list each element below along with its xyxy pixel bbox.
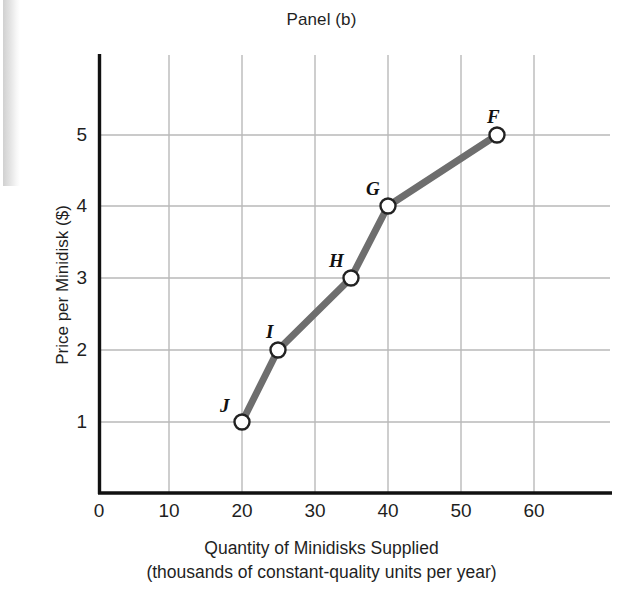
- point-label-G: G: [366, 178, 380, 200]
- data-point-H: [344, 271, 359, 286]
- x-tick-label-20: 20: [220, 500, 264, 522]
- data-point-F: [490, 128, 505, 143]
- point-label-J: J: [220, 395, 230, 417]
- point-label-H: H: [329, 250, 344, 272]
- data-point-I: [271, 343, 286, 358]
- point-label-I: I: [266, 321, 273, 343]
- x-tick-label-10: 10: [147, 500, 191, 522]
- x-tick-label-60: 60: [512, 500, 556, 522]
- data-point-G: [381, 199, 396, 214]
- x-axis-title: Quantity of Minidisks Supplied (thousand…: [0, 536, 643, 584]
- x-tick-label-50: 50: [439, 500, 483, 522]
- x-tick-label-30: 30: [293, 500, 337, 522]
- x-tick-label-40: 40: [366, 500, 410, 522]
- y-tick-label-5: 5: [57, 124, 87, 146]
- x-axis-title-line1: Quantity of Minidisks Supplied: [0, 536, 643, 560]
- x-tick-label-0: 0: [77, 500, 121, 522]
- x-axis-title-line2: (thousands of constant-quality units per…: [0, 560, 643, 584]
- data-point-J: [235, 415, 250, 430]
- y-axis-title: Price per Minidisk ($): [53, 155, 73, 415]
- point-label-F: F: [487, 106, 500, 128]
